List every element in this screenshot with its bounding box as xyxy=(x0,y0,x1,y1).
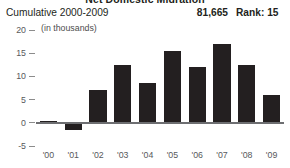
y-axis-tick-label: 5 xyxy=(21,95,26,105)
y-axis-tick-mark xyxy=(29,30,35,31)
y-axis-tick-mark xyxy=(29,122,35,123)
bar xyxy=(139,83,156,122)
cumulative-period-label: Cumulative 2000-2009 xyxy=(6,7,109,18)
x-axis-tick-label: '00 xyxy=(36,150,61,160)
panel-header: Cumulative 2000-2009 81,665 Rank: 15 xyxy=(0,7,290,21)
bar xyxy=(238,65,255,123)
bar xyxy=(189,67,206,123)
x-axis-tick-label: '07 xyxy=(210,150,235,160)
panel-title: Net Domestic Migration xyxy=(8,0,282,3)
x-axis-tick-label: '04 xyxy=(135,150,160,160)
y-axis-tick-label: 0 xyxy=(21,118,26,128)
zero-baseline xyxy=(36,122,284,124)
y-axis-tick-mark xyxy=(29,53,35,54)
x-axis-tick-label: '06 xyxy=(185,150,210,160)
x-axis-tick-label: '05 xyxy=(160,150,185,160)
bar xyxy=(164,51,181,123)
y-axis-tick-mark xyxy=(29,76,35,77)
cumulative-total-value: 81,665 xyxy=(183,7,228,18)
x-axis-tick-label: '02 xyxy=(86,150,111,160)
bar xyxy=(263,95,280,123)
bar xyxy=(89,90,106,122)
x-axis-labels: '00'01'02'03'04'05'06'07'08'09 xyxy=(36,150,284,164)
x-axis-tick-label: '01 xyxy=(61,150,86,160)
y-axis-tick-mark xyxy=(29,99,35,100)
y-axis-tick-label: -5 xyxy=(18,141,26,151)
rank-badge: Rank: 15 xyxy=(236,7,278,18)
x-axis-tick-label: '08 xyxy=(234,150,259,160)
y-axis-tick-label: 20 xyxy=(16,25,26,35)
bar xyxy=(114,65,131,123)
y-axis-tick: 0 xyxy=(2,118,36,128)
y-axis-tick: 15 xyxy=(2,48,36,58)
migration-chart-panel: Net Domestic Migration Cumulative 2000-2… xyxy=(0,0,290,168)
bar xyxy=(213,44,230,123)
y-axis-tick-label: 10 xyxy=(16,71,26,81)
chart-plot-area: 20151050-5 xyxy=(36,30,284,146)
y-axis-tick-label: 15 xyxy=(16,48,26,58)
y-axis-tick: 5 xyxy=(2,95,36,105)
y-axis-tick: 20 xyxy=(2,25,36,35)
x-axis-tick-label: '09 xyxy=(259,150,284,160)
y-axis-tick-mark xyxy=(29,146,35,147)
y-axis-tick: -5 xyxy=(2,141,36,151)
y-axis-tick: 10 xyxy=(2,71,36,81)
bar xyxy=(65,123,82,130)
x-axis-tick-label: '03 xyxy=(110,150,135,160)
